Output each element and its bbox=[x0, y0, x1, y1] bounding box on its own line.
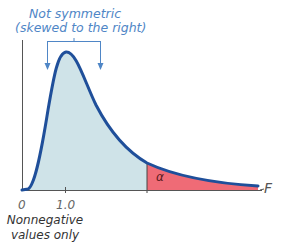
x-axis-label: F bbox=[264, 180, 272, 196]
annotation-nonnegative: Nonnegative bbox=[5, 213, 85, 227]
tick-label-zero: 0 bbox=[18, 198, 26, 212]
annotation-not-symmetric: Not symmetric bbox=[20, 6, 130, 21]
alpha-label: α bbox=[156, 170, 164, 184]
annotation-values-only: values only bbox=[5, 228, 85, 242]
tick-label-one: 1.0 bbox=[56, 198, 75, 212]
arrow-down-right-icon bbox=[98, 63, 104, 70]
annotation-skewed-right: (skewed to the right) bbox=[15, 20, 135, 35]
f-distribution-chart bbox=[0, 0, 296, 249]
body-area bbox=[22, 52, 147, 190]
arrow-down-left-icon bbox=[45, 63, 51, 70]
